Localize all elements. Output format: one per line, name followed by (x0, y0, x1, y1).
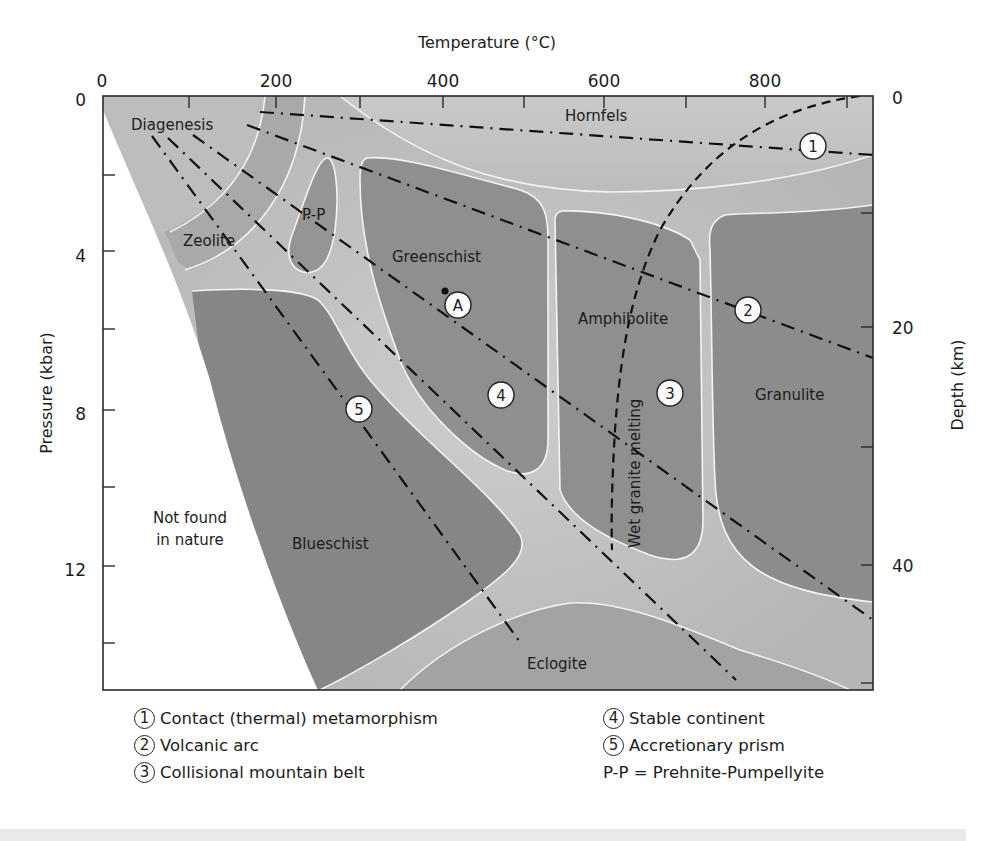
legend-label-4: Stable continent (629, 705, 765, 732)
legend-num-1: 1 (134, 708, 155, 729)
label-greenschist: Greenschist (392, 248, 481, 266)
point-a-marker (442, 288, 449, 295)
y-right-axis-title: Depth (km) (948, 339, 967, 430)
label-diagenesis: Diagenesis (131, 116, 213, 134)
legend-item-2: 2 Volcanic arc (134, 732, 438, 759)
marker-3: 3 (657, 380, 683, 406)
legend-label-2: Volcanic arc (160, 732, 259, 759)
label-pp: P-P (302, 206, 325, 224)
label-eclogite: Eclogite (527, 655, 587, 673)
legend-num-2: 2 (134, 735, 155, 756)
label-blueschist: Blueschist (292, 535, 369, 553)
legend-left: 1 Contact (thermal) metamorphism 2 Volca… (134, 705, 438, 786)
y-left-tick-12: 12 (64, 560, 86, 580)
legend-right: 4 Stable continent 5 Accretionary prism … (603, 705, 824, 786)
svg-text:3: 3 (665, 385, 675, 403)
legend-label-1: Contact (thermal) metamorphism (160, 705, 438, 732)
x-tick-400: 400 (427, 71, 459, 91)
page-bottom-band (0, 829, 966, 841)
y-left-tick-8: 8 (75, 404, 86, 424)
legend-item-4: 4 Stable continent (603, 705, 824, 732)
label-hornfels: Hornfels (565, 107, 628, 125)
legend-abbreviation: P-P = Prehnite-Pumpellyite (603, 759, 824, 786)
svg-text:1: 1 (808, 138, 818, 156)
y-left-tick-4: 4 (75, 246, 86, 266)
label-zeolite: Zeolite (183, 232, 235, 250)
legend-item-3: 3 Collisional mountain belt (134, 759, 438, 786)
label-amphibolite: Amphibolite (578, 310, 668, 328)
x-tick-0: 0 (97, 71, 108, 91)
legend-item-5: 5 Accretionary prism (603, 732, 824, 759)
label-not-found-1: Not found (153, 509, 227, 527)
legend-num-3: 3 (134, 762, 155, 783)
y-left-tick-0: 0 (75, 90, 86, 110)
legend-num-5: 5 (603, 735, 624, 756)
svg-text:4: 4 (496, 387, 506, 405)
x-tick-800: 800 (749, 71, 781, 91)
svg-text:5: 5 (354, 401, 364, 419)
x-tick-200: 200 (260, 71, 292, 91)
marker-4: 4 (488, 382, 514, 408)
y-right-tick-0: 0 (892, 88, 903, 108)
y-left-axis-title: Pressure (kbar) (37, 332, 56, 454)
legend-num-4: 4 (603, 708, 624, 729)
legend-item-1: 1 Contact (thermal) metamorphism (134, 705, 438, 732)
y-right-tick-40: 40 (892, 556, 914, 576)
svg-text:A: A (453, 297, 464, 315)
svg-text:2: 2 (743, 302, 753, 320)
marker-a: A (445, 292, 471, 318)
legend-abbreviation-text: P-P = Prehnite-Pumpellyite (603, 759, 824, 786)
y-right-tick-20: 20 (892, 318, 914, 338)
x-tick-600: 600 (588, 71, 620, 91)
marker-2: 2 (735, 297, 761, 323)
label-granulite: Granulite (755, 386, 824, 404)
label-not-found-2: in nature (156, 531, 224, 549)
legend-label-5: Accretionary prism (629, 732, 785, 759)
marker-5: 5 (346, 396, 372, 422)
marker-1: 1 (800, 133, 826, 159)
label-wet-granite-melting: Wet granite melting (626, 399, 644, 548)
legend-label-3: Collisional mountain belt (160, 759, 365, 786)
x-axis-title: Temperature (°C) (417, 33, 556, 52)
